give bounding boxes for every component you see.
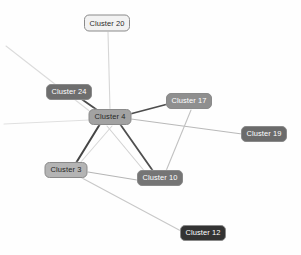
graph-node-cluster-10[interactable]: Cluster 10 [137,170,183,186]
graph-node-cluster-20[interactable]: Cluster 20 [84,15,130,32]
graph-node-cluster-24[interactable]: Cluster 24 [46,84,92,100]
graph-node-label: Cluster 17 [171,97,206,105]
graph-node-label: Cluster 12 [185,229,220,237]
network-graph-canvas[interactable]: Cluster 20Cluster 24Cluster 4Cluster 17C… [0,0,301,255]
graph-edge [108,32,110,110]
graph-edge [4,120,90,124]
graph-node-cluster-4[interactable]: Cluster 4 [89,109,132,125]
graph-node-label: Cluster 10 [142,174,177,182]
graph-edge [130,104,168,114]
graph-node-cluster-3[interactable]: Cluster 3 [45,162,88,178]
graph-node-label: Cluster 20 [89,19,124,27]
graph-edge [6,46,92,113]
graph-node-cluster-12[interactable]: Cluster 12 [180,225,226,241]
graph-node-label: Cluster 19 [246,130,281,138]
graph-node-cluster-17[interactable]: Cluster 17 [166,93,212,109]
graph-node-label: Cluster 4 [95,113,126,121]
graph-node-cluster-19[interactable]: Cluster 19 [241,126,287,142]
graph-edge [88,172,137,180]
graph-node-label: Cluster 24 [51,88,86,96]
graph-node-label: Cluster 3 [51,166,82,174]
graph-edge [166,110,191,171]
